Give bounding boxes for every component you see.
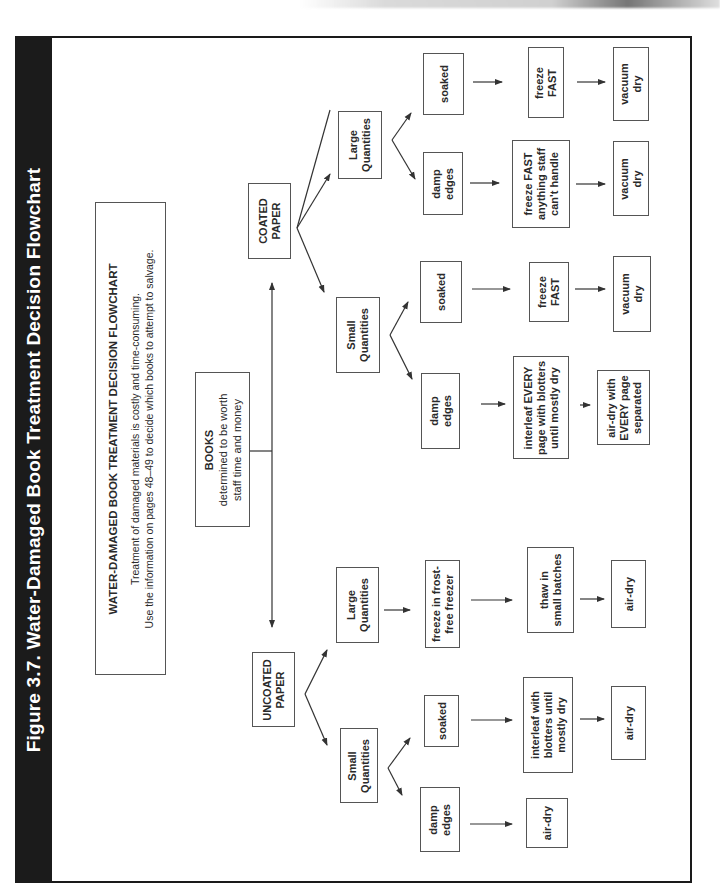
node-coated-large-quantities: Large Quantities bbox=[338, 111, 382, 179]
label: anything staff bbox=[535, 148, 547, 220]
node-us-soaked-air-dry: air-dry bbox=[611, 686, 646, 760]
label: can't handle bbox=[548, 152, 560, 216]
flowchart-info-box: WATER-DAMAGED BOOK TREATMENT DECISION FL… bbox=[95, 202, 166, 675]
label: Quantities bbox=[360, 118, 372, 172]
label: free freezer bbox=[443, 574, 455, 633]
label: vacuum bbox=[618, 158, 630, 200]
label: dry bbox=[632, 285, 644, 302]
node-us-soaked: soaked bbox=[424, 695, 459, 747]
label: page with blotters bbox=[535, 360, 547, 454]
label: air-dry bbox=[541, 806, 554, 840]
label: air-dry bbox=[622, 577, 635, 611]
label: Small bbox=[345, 320, 357, 349]
label: freeze bbox=[536, 276, 548, 308]
label: FAST bbox=[549, 278, 561, 306]
node-cl-soaked-freeze-fast: freeze FAST bbox=[528, 47, 564, 118]
label: air-dry with bbox=[604, 378, 616, 437]
info-line-2: Use the information on pages 48–49 to de… bbox=[143, 249, 155, 628]
label: Quantities bbox=[358, 308, 370, 362]
label: Large bbox=[345, 590, 357, 620]
node-cl-soaked-vacuum-dry: vacuum dry bbox=[613, 47, 649, 121]
uncoated-label-1: UNCOATED bbox=[261, 659, 273, 721]
node-us-damp-edges: damp edges bbox=[420, 787, 460, 852]
label: air-dry bbox=[622, 706, 635, 740]
label: Quantities bbox=[359, 739, 371, 793]
node-coated-paper: COATED PAPER bbox=[248, 183, 291, 259]
label: until mostly dry bbox=[548, 367, 560, 449]
node-us-soaked-interleaf-blotters: interleaf with blotters until mostly dry bbox=[523, 677, 573, 773]
label: soaked bbox=[435, 273, 448, 311]
label: dry bbox=[631, 75, 643, 92]
label: edges bbox=[443, 168, 455, 200]
label: Large bbox=[347, 130, 359, 160]
label: Small bbox=[346, 751, 358, 780]
label: FAST bbox=[546, 68, 558, 96]
coated-label-1: COATED bbox=[257, 198, 269, 244]
node-ul-freeze-frost-free: freeze in frost- free freezer bbox=[425, 560, 460, 648]
node-coated-small-quantities: Small Quantities bbox=[336, 297, 380, 373]
label: soaked bbox=[435, 702, 448, 740]
label: blotters until bbox=[542, 692, 554, 759]
root-line-3: staff time and money bbox=[231, 399, 243, 501]
node-coated-small-damp-edges: damp edges bbox=[421, 373, 460, 449]
label: mostly dry bbox=[555, 697, 567, 753]
info-heading: WATER-DAMAGED BOOK TREATMENT DECISION FL… bbox=[106, 249, 120, 628]
label: soaked bbox=[437, 65, 450, 103]
label: interleaf EVERY bbox=[522, 366, 534, 449]
root-line-2: determined to be worth bbox=[217, 393, 229, 506]
label: Quantities bbox=[358, 578, 370, 632]
node-cs-damp-interleaf-every-page: interleaf EVERY page with blotters until… bbox=[513, 356, 569, 459]
node-cl-damp-vacuum-dry: vacuum dry bbox=[613, 141, 649, 216]
label: damp bbox=[428, 396, 440, 425]
node-books-root: BOOKS determined to be worth staff time … bbox=[195, 372, 250, 527]
label: edges bbox=[441, 395, 453, 427]
label: damp bbox=[430, 169, 442, 198]
node-uncoated-large-quantities: Large Quantities bbox=[336, 567, 379, 643]
label: interleaf with bbox=[529, 691, 541, 759]
node-cs-soaked-vacuum-dry: vacuum dry bbox=[613, 256, 651, 332]
coated-label-2: PAPER bbox=[270, 202, 282, 239]
label: dry bbox=[631, 170, 643, 187]
label: edges bbox=[440, 804, 452, 836]
node-uncoated-small-quantities: Small Quantities bbox=[340, 728, 378, 803]
label: vacuum bbox=[619, 273, 631, 315]
node-us-damp-air-dry: air-dry bbox=[526, 798, 568, 848]
root-line-1: BOOKS bbox=[203, 429, 215, 469]
uncoated-label-2: PAPER bbox=[274, 671, 286, 708]
node-ul-air-dry: air-dry bbox=[611, 560, 646, 628]
node-coated-large-damp-edges: damp edges bbox=[423, 152, 463, 215]
node-uncoated-paper: UNCOATED PAPER bbox=[252, 652, 295, 727]
label: freeze FAST bbox=[522, 153, 534, 216]
node-cl-damp-freeze-fast-anything: freeze FAST anything staff can't handle bbox=[512, 140, 570, 228]
node-coated-small-soaked: soaked bbox=[420, 261, 462, 323]
label: thaw in bbox=[538, 571, 550, 609]
label: damp bbox=[427, 805, 439, 834]
info-line-1: Treatment of damaged materials is costly… bbox=[129, 293, 141, 585]
node-cs-damp-air-dry-every-page: air-dry with EVERY page separated bbox=[597, 370, 650, 445]
node-cs-soaked-freeze-fast: freeze FAST bbox=[529, 262, 569, 322]
label: separated bbox=[630, 382, 642, 434]
label: freeze in frost- bbox=[430, 566, 442, 642]
label: vacuum bbox=[618, 63, 630, 105]
info-text: WATER-DAMAGED BOOK TREATMENT DECISION FL… bbox=[106, 249, 156, 628]
label: small batches bbox=[551, 554, 563, 627]
label: freeze bbox=[533, 67, 545, 99]
node-ul-thaw-small-batches: thaw in small batches bbox=[527, 547, 574, 633]
node-coated-large-soaked: soaked bbox=[423, 53, 464, 115]
label: EVERY page bbox=[617, 375, 629, 440]
